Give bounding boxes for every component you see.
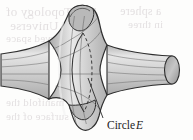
circle-e-label: CircleE — [107, 120, 143, 132]
label-layer: CircleE — [0, 0, 193, 140]
figure-container: The Topology of The Universe curved spac… — [0, 0, 193, 140]
circle-e-label-letter: E — [135, 119, 143, 131]
circle-e-label-word: Circle — [107, 119, 135, 131]
